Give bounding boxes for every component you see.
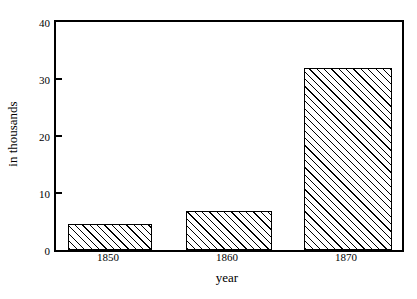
- bar-chart-figure: in thousands 403020100 185018601870 year: [0, 0, 417, 299]
- y-axis-tick-mark: [56, 78, 62, 80]
- x-axis-tick-label: 1860: [216, 252, 238, 263]
- x-axis-title: year: [216, 271, 238, 284]
- bar: [68, 224, 152, 250]
- x-axis-tick-label: 1870: [335, 252, 357, 263]
- y-axis-tick-label: 0: [45, 246, 51, 257]
- y-axis-tick-label: 30: [39, 75, 50, 86]
- y-axis-tick-label: 10: [39, 189, 50, 200]
- y-axis-title: in thousands: [6, 101, 19, 166]
- plot-area: 403020100: [54, 20, 404, 252]
- bar: [304, 68, 392, 250]
- x-axis-tick-label: 1850: [97, 252, 119, 263]
- y-axis-tick-mark: [56, 135, 62, 137]
- bar: [186, 211, 272, 250]
- y-axis-tick-label: 40: [39, 18, 50, 29]
- y-axis-tick-label: 20: [39, 132, 50, 143]
- y-axis-tick-mark: [56, 192, 62, 194]
